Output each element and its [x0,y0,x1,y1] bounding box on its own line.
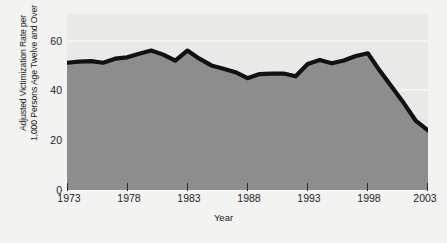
x-tickmark-1978 [127,183,128,191]
x-tickmark-2003 [427,183,428,191]
x-tick-label-1973: 1973 [49,192,89,204]
x-tickmark-1993 [307,183,308,191]
chart-plot-svg [67,14,428,190]
x-tick-label-1988: 1988 [229,192,269,204]
plot-area [67,14,428,190]
x-tickmark-1988 [247,183,248,191]
x-tickmark-1973 [67,183,68,191]
x-tick-label-2003: 2003 [405,192,445,204]
x-tick-label-1998: 1998 [349,192,389,204]
chart-screenshot: Adjusted Victimization Rate per 1,000 Pe… [0,0,447,243]
area-fill-path [67,51,428,190]
y-tick-label-40: 40 [40,84,62,96]
x-tickmark-1998 [367,183,368,191]
x-tick-label-1993: 1993 [289,192,329,204]
y-tick-label-60: 60 [40,35,62,47]
x-axis-title: Year [0,212,447,223]
x-tick-label-1978: 1978 [109,192,149,204]
y-tick-label-20: 20 [40,134,62,146]
x-tickmark-1983 [187,183,188,191]
x-tick-label-1983: 1983 [169,192,209,204]
